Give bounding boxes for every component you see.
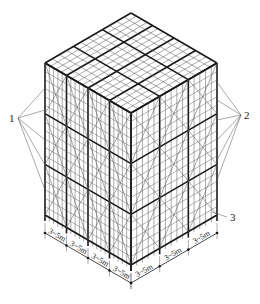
- left-face-brace: [110, 164, 132, 202]
- right-face-brace: [160, 181, 189, 248]
- left-face-brace: [67, 189, 89, 227]
- left-face-brace: [88, 202, 110, 240]
- right-face-brace: [131, 96, 160, 163]
- dimension-node: [216, 232, 219, 235]
- left-face-brace: [45, 126, 67, 164]
- callout-1: 1: [9, 88, 45, 190]
- right-face-brace: [188, 164, 217, 231]
- dimension-node: [108, 269, 111, 272]
- right-face-ledger: [131, 164, 217, 214]
- dimension-node: [87, 257, 90, 260]
- dimension-node: [158, 265, 161, 268]
- left-face-brace: [110, 214, 132, 252]
- right-face-brace: [131, 198, 160, 265]
- right-face-brace: [131, 147, 160, 214]
- scaffold-diagram: 123 3~5m3~5m3~5m3~5m3~5m3~5m3~5m: [0, 0, 260, 304]
- callout-label-3: 3: [230, 211, 236, 223]
- left-face-brace: [110, 113, 132, 151]
- dimension-left-label: 3~5m: [68, 239, 89, 256]
- left-face-brace: [45, 177, 67, 215]
- left-face-brace: [67, 88, 89, 126]
- left-face-brace: [45, 76, 67, 114]
- dimension-node: [187, 248, 190, 251]
- leader-line: [217, 115, 241, 120]
- leader-line: [217, 115, 241, 140]
- leader-line: [217, 115, 241, 160]
- dimension-left-label: 3~5m: [90, 252, 111, 269]
- left-face-brace: [88, 101, 110, 139]
- callout-2: 2: [217, 82, 250, 180]
- leader-line: [217, 82, 241, 115]
- dimension-node: [130, 282, 133, 285]
- dimension-node: [65, 244, 68, 247]
- dimension-node: [44, 232, 47, 235]
- leader-line: [18, 88, 45, 118]
- leader-line: [217, 115, 241, 180]
- dimension-left-label: 3~5m: [47, 227, 68, 244]
- callout-label-1: 1: [9, 112, 15, 124]
- left-face-brace: [88, 151, 110, 189]
- right-face-brace: [188, 63, 217, 130]
- scaffold-structure: [45, 13, 217, 271]
- callout-3: 3: [212, 211, 236, 223]
- callout-label-2: 2: [244, 109, 250, 121]
- leader-line: [18, 118, 45, 165]
- left-face-brace: [67, 139, 89, 177]
- right-face-brace: [160, 130, 189, 197]
- right-face-brace: [160, 80, 189, 147]
- dimension-left-label: 3~5m: [111, 264, 132, 281]
- leader-line: [18, 110, 45, 118]
- leader-line: [217, 100, 241, 115]
- right-face-ledger: [131, 114, 217, 164]
- right-face-brace: [188, 114, 217, 181]
